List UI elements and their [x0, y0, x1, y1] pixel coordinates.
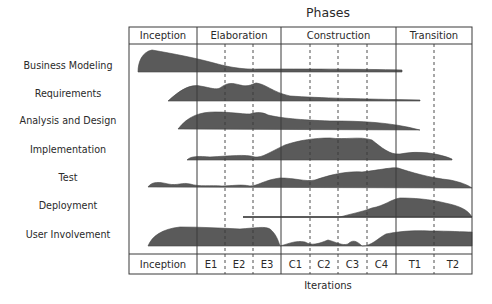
- phase-header-transition: Transition: [396, 28, 472, 44]
- iteration-e1: E1: [197, 255, 225, 274]
- hump-requirements: [168, 83, 420, 101]
- iteration-c3: C3: [338, 255, 367, 274]
- hump-analysis-design: [178, 112, 420, 130]
- hump-implementation: [187, 138, 452, 160]
- iteration-c1: C1: [281, 255, 310, 274]
- hump-deployment: [243, 198, 472, 217]
- iteration-e3: E3: [253, 255, 281, 274]
- iteration-t2: T2: [434, 255, 472, 274]
- phase-header-elaboration: Elaboration: [197, 28, 281, 44]
- iteration-inception: Inception: [129, 255, 197, 274]
- iteration-t1: T1: [396, 255, 434, 274]
- iteration-e2: E2: [225, 255, 253, 274]
- phase-header-construction: Construction: [281, 28, 396, 44]
- x-axis-label: Iterations: [270, 280, 386, 291]
- iteration-c2: C2: [310, 255, 338, 274]
- iteration-c4: C4: [367, 255, 396, 274]
- phase-header-inception: Inception: [129, 28, 197, 44]
- hump-business-modeling: [138, 50, 402, 72]
